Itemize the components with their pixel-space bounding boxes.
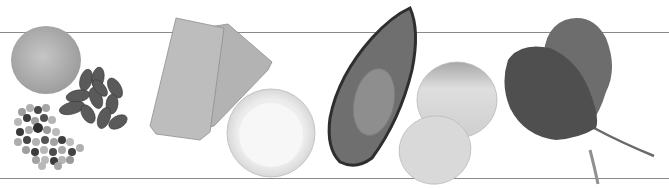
food-illustration	[0, 0, 669, 189]
bowl-icon	[227, 89, 315, 177]
egg-icon	[11, 26, 81, 94]
spinach-icon	[504, 18, 654, 184]
food-photo-strip	[0, 0, 669, 189]
